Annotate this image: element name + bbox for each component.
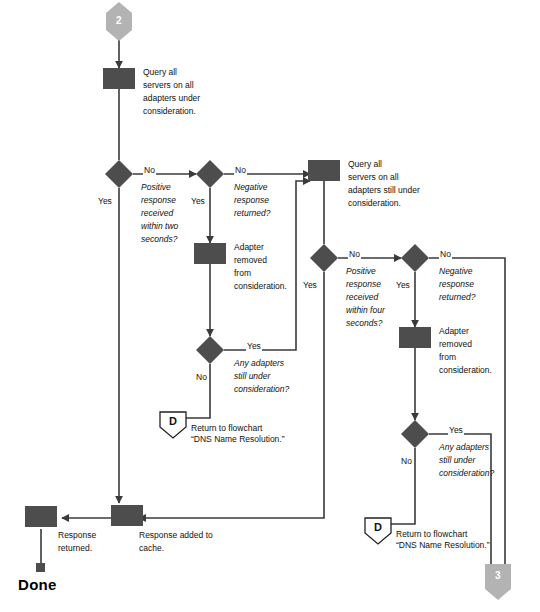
process-label-adapter-removed-2-line4: consideration. — [439, 365, 492, 376]
decision-branch-any-adapters-1-yes: Yes — [246, 341, 262, 352]
decision-branch-any-adapters-2-no: No — [400, 456, 413, 467]
flowchart-canvas — [0, 0, 540, 612]
decision-label-negative-returned-1-line1: Negative — [234, 182, 268, 193]
offpage-d-left-caption-1: Return to flowchart — [191, 423, 262, 434]
decision-label-any-adapters-2-line1: Any adapters — [439, 442, 489, 453]
decision-branch-negative-returned-1-no: No — [234, 165, 247, 176]
process-label-response-added-cache-line1: Response added to — [139, 530, 213, 541]
decision-branch-positive-two-sec-yes: Yes — [97, 196, 113, 207]
process-label-response-returned-line2: returned. — [58, 543, 92, 554]
process-label-adapter-removed-1-line2: removed — [234, 255, 267, 266]
decision-diamond-any-adapters-1 — [196, 336, 224, 364]
process-label-adapter-removed-2-line1: Adapter — [439, 326, 469, 337]
process-label-query-all-1-line2: servers on all — [143, 80, 194, 91]
decision-branch-positive-two-sec-no: No — [143, 165, 156, 176]
decision-label-positive-four-sec-line1: Positive — [346, 266, 376, 277]
connector-3-label: 3 — [495, 570, 501, 581]
process-label-response-returned-line1: Response — [58, 530, 96, 541]
decision-branch-any-adapters-2-yes: Yes — [448, 425, 464, 436]
decision-diamond-any-adapters-2 — [401, 420, 429, 448]
decision-label-positive-four-sec-line4: within four — [346, 305, 385, 316]
process-box-adapter-removed-1 — [194, 243, 226, 264]
decision-diamond-positive-four-sec — [310, 244, 338, 272]
process-box-response-returned — [25, 506, 57, 527]
decision-label-positive-two-sec-line1: Positive — [141, 182, 171, 193]
process-label-adapter-removed-2-line2: removed — [439, 339, 472, 350]
process-label-query-all-1-line3: adapters under — [143, 93, 200, 104]
decision-label-any-adapters-1-line1: Any adapters — [234, 358, 284, 369]
process-label-adapter-removed-2-line3: from — [439, 352, 456, 363]
decision-label-negative-returned-2-line2: response — [439, 279, 474, 290]
decision-branch-any-adapters-1-no: No — [195, 372, 208, 383]
edge-negative2-no-to-connector3 — [429, 258, 505, 566]
decision-branch-positive-four-sec-yes: Yes — [302, 280, 318, 291]
decision-label-negative-returned-1-line3: returned? — [234, 208, 270, 219]
decision-label-positive-two-sec-line3: received — [141, 208, 173, 219]
process-label-response-added-cache-line2: cache. — [139, 543, 164, 554]
terminator-done-label: Done — [18, 576, 57, 593]
decision-label-positive-four-sec-line2: response — [346, 279, 381, 290]
decision-diamond-negative-returned-2 — [401, 244, 429, 272]
decision-label-any-adapters-1-line2: still under — [234, 371, 270, 382]
decision-label-negative-returned-1-line2: response — [234, 195, 269, 206]
process-label-adapter-removed-1-line3: from — [234, 268, 251, 279]
decision-branch-negative-returned-2-no: No — [439, 249, 452, 260]
edge-anyadapters1-yes-to-query2 — [224, 181, 310, 350]
decision-diamond-negative-returned-1 — [196, 160, 224, 188]
decision-label-any-adapters-1-line3: consideration? — [234, 384, 289, 395]
process-box-query-all-1 — [103, 68, 135, 89]
decision-branch-negative-returned-2-yes: Yes — [395, 280, 411, 291]
process-label-adapter-removed-1-line1: Adapter — [234, 242, 264, 253]
process-box-adapter-removed-2 — [399, 327, 431, 348]
process-label-query-all-2-line4: consideration. — [348, 198, 401, 209]
connector-2-label: 2 — [116, 15, 122, 26]
process-label-query-all-2-line1: Query all — [348, 159, 382, 170]
process-label-query-all-1-line4: consideration. — [143, 106, 196, 117]
decision-diamond-positive-two-sec — [105, 160, 133, 188]
decision-label-negative-returned-2-line3: returned? — [439, 292, 475, 303]
decision-label-positive-four-sec-line5: seconds? — [346, 318, 382, 329]
decision-label-any-adapters-2-line2: still under — [439, 455, 475, 466]
offpage-d-left-caption-2: “DNS Name Resolution.” — [191, 434, 285, 445]
decision-label-positive-four-sec-line3: received — [346, 292, 378, 303]
offpage-d-right-caption-2: “DNS Name Resolution.” — [396, 540, 490, 551]
process-label-query-all-2-line2: servers on all — [348, 172, 399, 183]
process-label-adapter-removed-1-line4: consideration. — [234, 281, 287, 292]
process-label-query-all-2-line3: adapters still under — [348, 185, 420, 196]
decision-label-positive-two-sec-line4: within two — [141, 221, 178, 232]
decision-branch-positive-four-sec-no: No — [348, 249, 361, 260]
decision-label-positive-two-sec-line2: response — [141, 195, 176, 206]
offpage-d-right-label: D — [374, 522, 382, 533]
process-box-response-added-cache — [111, 505, 143, 526]
decision-label-positive-two-sec-line5: seconds? — [141, 234, 177, 245]
process-box-query-all-2 — [308, 160, 340, 181]
offpage-d-left-label: D — [169, 416, 177, 427]
decision-label-negative-returned-2-line1: Negative — [439, 266, 473, 277]
decision-label-any-adapters-2-line3: consideration? — [439, 468, 494, 479]
process-label-query-all-1-line1: Query all — [143, 67, 177, 78]
terminator-square — [36, 563, 45, 572]
decision-branch-negative-returned-1-yes: Yes — [190, 196, 206, 207]
offpage-d-right-caption-1: Return to flowchart — [396, 529, 467, 540]
